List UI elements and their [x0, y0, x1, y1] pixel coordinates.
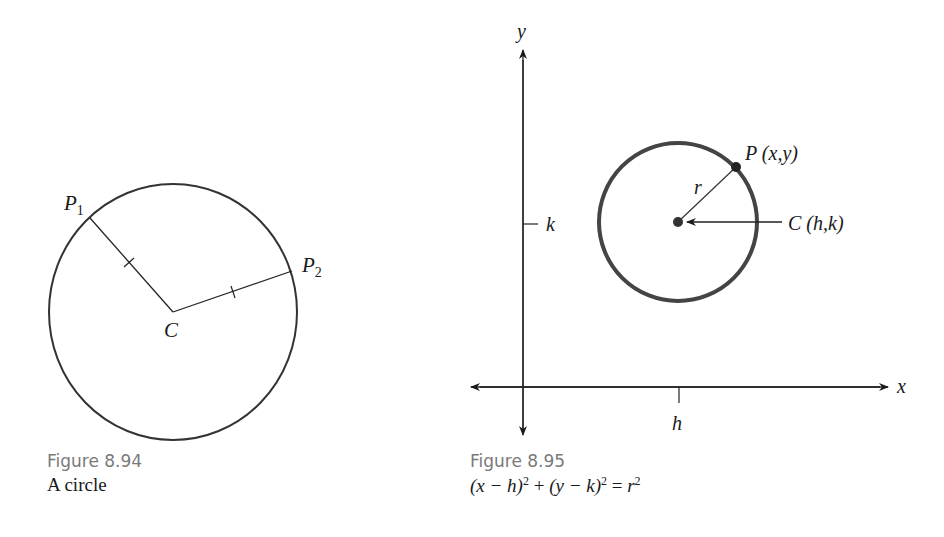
figure-8-94-title: Figure 8.94	[47, 451, 142, 471]
figure-8-94-caption: A circle	[47, 474, 107, 496]
label-p1: P1	[63, 191, 84, 218]
eq-equals: =	[607, 475, 627, 496]
radius-line	[678, 167, 736, 222]
h-tick-label: h	[672, 412, 682, 434]
center-label: C (h,k)	[788, 212, 844, 235]
figure-8-95-title: Figure 8.95	[470, 451, 565, 471]
k-tick-label: k	[546, 213, 556, 235]
figure-8-94-diagram: P1 P2 C	[49, 184, 322, 440]
eq-exp-3: 2	[635, 474, 641, 488]
eq-term-3: r	[627, 475, 634, 496]
center-point	[673, 217, 683, 227]
y-axis-label: y	[515, 20, 526, 43]
figure-8-95-equation: (x − h)2 + (y − k)2 = r2	[470, 474, 641, 497]
figure-8-95-diagram: y x k h r P (x,y) C (h,k)	[471, 20, 906, 435]
label-p2: P2	[301, 253, 322, 280]
radius-cp1	[90, 218, 173, 312]
radius-label: r	[694, 176, 702, 198]
point-p-label: P (x,y)	[744, 142, 798, 165]
eq-term-2: (y − k)	[549, 475, 601, 496]
point-p	[731, 162, 741, 172]
eq-plus: +	[529, 475, 549, 496]
x-axis-label: x	[896, 375, 906, 397]
label-center-c: C	[164, 318, 179, 342]
eq-term-1: (x − h)	[470, 475, 523, 496]
